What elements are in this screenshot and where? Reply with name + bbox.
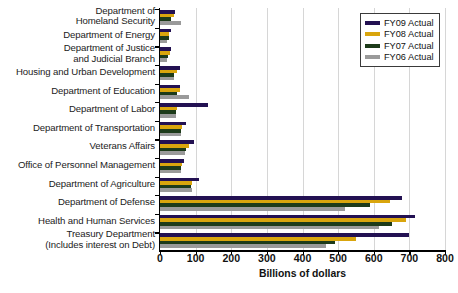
y-tick-mark [155,214,160,215]
category-label: Treasury Department (Includes interest o… [45,229,155,250]
x-tick-label: 700 [401,252,419,264]
category-label: Housing and Urban Development [16,67,155,77]
bar [160,226,379,230]
gridline [445,8,446,250]
y-tick-mark [155,65,160,66]
legend-item: FY08 Actual [365,29,434,41]
legend-item: FY06 Actual [365,52,434,64]
category-label: Department of Energy [63,30,155,40]
legend-label: FY08 Actual [384,29,434,39]
gridline [303,8,304,250]
legend-item: FY09 Actual [365,17,434,29]
x-tick-label: 0 [157,252,163,264]
bar [160,95,189,99]
bar [160,21,181,25]
y-tick-mark [155,121,160,122]
category-axis-labels: Department of Homeland SecurityDepartmen… [0,8,157,250]
category-label: Office of Personnel Management [18,160,155,170]
bar [160,170,181,174]
category-label: Department of Transportation [33,123,155,133]
y-tick-mark [155,232,160,233]
bar [160,77,174,81]
category-label: Department of Education [51,86,155,96]
x-tick-label: 500 [329,252,347,264]
legend-label: FY09 Actual [384,18,434,28]
legend-swatch-icon [365,55,380,59]
category-label: Veterans Affairs [90,141,155,151]
y-tick-mark [155,177,160,178]
y-tick-mark [155,102,160,103]
x-tick-label: 200 [222,252,240,264]
x-tick-label: 800 [436,252,454,264]
x-tick-label: 400 [294,252,312,264]
y-tick-mark [155,158,160,159]
gridline [231,8,232,250]
y-tick-mark [155,46,160,47]
legend-swatch-icon [365,21,380,25]
y-tick-mark [155,139,160,140]
legend-swatch-icon [365,44,380,48]
bar [160,58,167,62]
bar [160,188,192,192]
bar [160,207,345,211]
y-tick-mark [155,84,160,85]
category-label: Department of Justice and Judicial Branc… [64,43,155,64]
y-tick-mark [155,195,160,196]
bar [160,151,185,155]
gridline [196,8,197,250]
bar [160,40,167,44]
category-label: Health and Human Services [38,216,155,226]
category-label: Department of Homeland Security [76,6,155,27]
gridline [267,8,268,250]
bar [160,244,326,248]
category-label: Department of Agriculture [49,179,155,189]
x-tick-label: 600 [365,252,383,264]
bar [160,114,176,118]
bar-chart: Department of Homeland SecurityDepartmen… [0,0,458,293]
chart-legend: FY09 ActualFY08 ActualFY07 ActualFY06 Ac… [360,13,440,67]
category-label: Department of Defense [58,197,155,207]
gridline [338,8,339,250]
legend-label: FY06 Actual [384,52,434,62]
bar [160,133,181,137]
legend-item: FY07 Actual [365,40,434,52]
x-tick-label: 100 [187,252,205,264]
y-tick-mark [155,9,160,10]
category-label: Department of Labor [69,104,155,114]
legend-label: FY07 Actual [384,41,434,51]
x-axis-tick-labels: 0100200300400500600700800 [160,252,450,266]
x-tick-label: 300 [258,252,276,264]
y-tick-mark [155,28,160,29]
legend-swatch-icon [365,32,380,36]
x-axis-title: Billions of dollars [160,268,445,279]
